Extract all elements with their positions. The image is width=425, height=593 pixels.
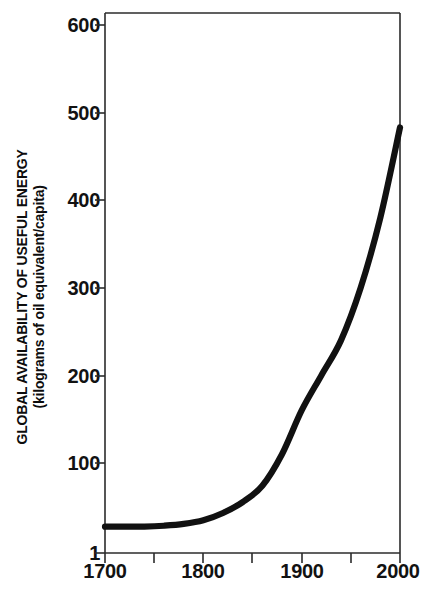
energy-availability-curve bbox=[105, 127, 400, 526]
plot-area bbox=[0, 0, 425, 593]
y-tick-marks bbox=[95, 25, 105, 553]
chart-figure: GLOBAL AVAILABILITY OF USEFUL ENERGY (ki… bbox=[0, 0, 425, 593]
x-tick-marks bbox=[105, 553, 400, 563]
